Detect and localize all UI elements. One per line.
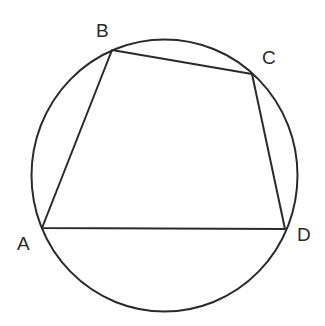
vertex-label-c: C bbox=[262, 47, 276, 68]
vertex-label-a: A bbox=[17, 233, 30, 254]
cyclic-quadrilateral-diagram: A B C D bbox=[0, 0, 325, 326]
vertex-label-b: B bbox=[96, 20, 109, 41]
vertex-label-d: D bbox=[297, 224, 311, 245]
circumscribed-circle bbox=[32, 40, 298, 312]
quadrilateral-abcd bbox=[42, 50, 285, 229]
